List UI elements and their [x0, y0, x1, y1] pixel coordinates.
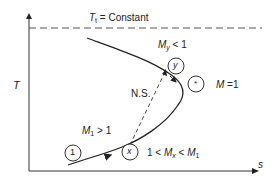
y-axis-arrow-icon	[26, 13, 32, 19]
normal-shock-label: N.S.	[131, 89, 150, 99]
mstar-annotation: M =1	[216, 80, 239, 90]
flow-direction-arrow-icon	[105, 155, 111, 157]
mx-annotation: 1 < Mx < M1	[147, 148, 199, 159]
state-x-label: x	[127, 147, 132, 156]
state-y-label: y	[173, 61, 178, 70]
state-star-label: *	[194, 80, 197, 88]
y-axis-label: T	[13, 80, 20, 91]
state-1-label: 1	[70, 148, 75, 157]
m1-annotation: M1 > 1	[82, 126, 111, 137]
stagnation-temperature-label: Tt = Constant	[89, 13, 148, 24]
my-annotation: My < 1	[158, 40, 187, 51]
x-axis-label: s	[258, 160, 263, 170]
fanno-diagram: T s Tt = Constant 1 x y * M1 > 1 1 < Mx …	[0, 0, 276, 187]
